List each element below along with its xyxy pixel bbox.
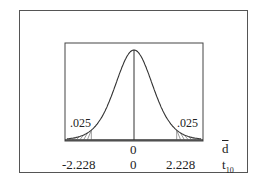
- right-tail-area-label: .025: [177, 117, 198, 129]
- left-tail-area-label: .025: [70, 117, 91, 129]
- left-tail-shading: [68, 130, 91, 140]
- t-left-critical-tick: -2.228: [62, 158, 96, 171]
- right-tail-shading: [177, 130, 200, 140]
- dbar-zero-tick: 0: [130, 143, 137, 156]
- t-zero-tick: 0: [130, 158, 137, 171]
- t-axis-label: t10: [222, 158, 234, 175]
- t-right-critical-tick: 2.228: [166, 158, 195, 171]
- dbar-axis-label: d: [222, 142, 229, 155]
